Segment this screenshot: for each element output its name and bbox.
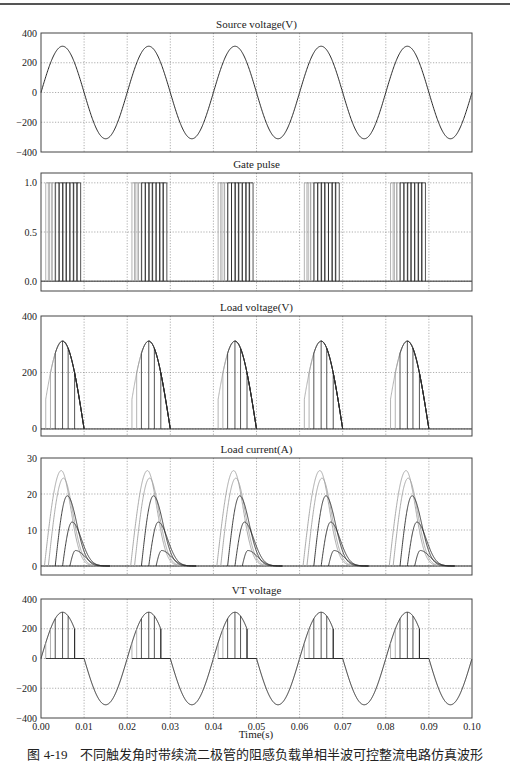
panel-load-current: Load current(A)3020100: [27, 443, 472, 575]
x-tick-label: 0.00: [32, 721, 50, 732]
x-tick-label: 0.02: [118, 721, 136, 732]
y-tick-label: −400: [16, 147, 37, 158]
trace: [333, 373, 342, 429]
trace: [241, 348, 257, 429]
y-tick-label: 1.0: [25, 177, 38, 188]
y-tick-label: −200: [16, 117, 37, 128]
trace: [307, 478, 369, 566]
panel-load-voltage: Load voltage(V)4002000: [22, 301, 472, 436]
trace: [218, 183, 222, 281]
x-tick-label: 0.04: [205, 721, 223, 732]
trace: [63, 522, 110, 566]
trace: [235, 522, 282, 566]
panel-title: Load voltage(V): [220, 301, 293, 314]
trace: [235, 341, 257, 429]
trace: [413, 348, 429, 429]
panel-title: VT voltage: [232, 584, 282, 596]
y-tick-label: 400: [22, 594, 37, 605]
trace: [391, 341, 429, 429]
trace: [141, 341, 170, 429]
trace: [135, 478, 197, 566]
trace: [149, 341, 171, 429]
panel-source-voltage: Source voltage(V)4002000−200−400: [16, 18, 472, 158]
trace: [154, 348, 170, 429]
y-tick-label: 200: [22, 367, 37, 378]
y-tick-label: 200: [22, 57, 37, 68]
y-tick-label: 0: [32, 561, 37, 572]
trace: [407, 522, 454, 566]
trace: [400, 341, 429, 429]
caption-number: 图 4-19: [27, 747, 67, 762]
x-tick-label: 0.07: [334, 721, 352, 732]
x-tick-label: 0.10: [463, 721, 481, 732]
trace: [327, 348, 343, 429]
trace: [321, 341, 343, 429]
trace: [75, 373, 84, 429]
y-tick-label: −200: [16, 683, 37, 694]
y-tick-label: 10: [27, 525, 37, 536]
trace: [68, 348, 84, 429]
trace: [161, 373, 170, 429]
panel-title: Gate pulse: [233, 158, 280, 170]
trace: [46, 341, 84, 429]
x-tick-label: 0.01: [75, 721, 93, 732]
trace: [228, 341, 257, 429]
y-tick-label: 0: [32, 653, 37, 664]
trace: [393, 478, 455, 566]
trace: [304, 341, 342, 429]
x-tick-label: 0.06: [291, 721, 309, 732]
trace: [63, 341, 85, 429]
y-tick-label: 400: [22, 311, 37, 322]
y-tick-label: 30: [27, 453, 37, 464]
panel-gate-pulse: Gate pulse1.00.50.0: [25, 158, 473, 291]
trace: [321, 522, 368, 566]
x-tick-label: 0.03: [162, 721, 180, 732]
y-tick-label: 0: [32, 423, 37, 434]
panel-title: Load current(A): [221, 443, 293, 456]
trace: [218, 341, 256, 429]
y-tick-label: 400: [22, 28, 37, 39]
y-tick-label: 20: [27, 489, 37, 500]
waveform-figure: Source voltage(V)4002000−200−400 Gate pu…: [0, 0, 510, 767]
trace: [247, 373, 256, 429]
trace: [221, 478, 283, 566]
x-tick-label: 0.08: [377, 721, 395, 732]
y-tick-label: 0.5: [25, 227, 38, 238]
trace: [55, 341, 84, 429]
trace: [149, 522, 196, 566]
panel-title: Source voltage(V): [216, 18, 297, 31]
panel-vt-voltage: VT voltage4002000−200−4000.000.010.020.0…: [16, 584, 480, 732]
caption-text: 不同触发角时带续流二极管的阻感负载单相半波可控整流电路仿真波形: [80, 747, 483, 762]
trace: [132, 341, 170, 429]
figure-caption: 图 4-19不同触发角时带续流二极管的阻感负载单相半波可控整流电路仿真波形: [0, 744, 510, 763]
x-tick-label: 0.09: [420, 721, 438, 732]
trace: [48, 478, 110, 566]
trace: [407, 341, 429, 429]
y-tick-label: 0.0: [25, 276, 38, 287]
y-tick-label: 0: [32, 87, 37, 98]
trace: [419, 373, 428, 429]
trace: [314, 341, 343, 429]
x-axis-label: Time(s): [239, 728, 274, 741]
y-tick-label: 200: [22, 623, 37, 634]
